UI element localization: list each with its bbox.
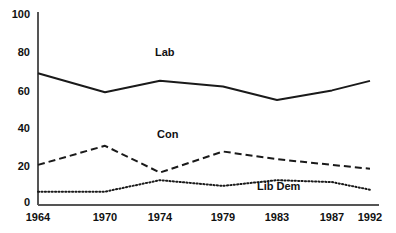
y-tick-label-20: 20 [0,160,30,172]
y-tick-label-60: 60 [0,85,30,97]
series-line-lib-dem [38,180,370,191]
plot-area [0,0,396,233]
series-label-lib-dem: Lib Dem [257,180,300,192]
series-label-lab: Lab [155,46,175,58]
x-tick-label-1979: 1979 [203,211,243,223]
line-chart: 100 80 60 40 20 0 1964 1970 1974 1979 19… [0,0,396,233]
y-tick-label-40: 40 [0,122,30,134]
x-tick-label-1987: 1987 [312,211,352,223]
series-label-con: Con [157,128,178,140]
x-tick-label-1992: 1992 [350,211,390,223]
series-line-con [38,146,370,173]
series-line-lab [38,73,370,100]
y-tick-label-80: 80 [0,46,30,58]
x-tick-label-1970: 1970 [85,211,125,223]
y-tick-label-100: 100 [0,8,30,20]
x-tick-label-1983: 1983 [257,211,297,223]
x-tick-label-1964: 1964 [18,211,58,223]
x-tick-label-1974: 1974 [140,211,180,223]
y-tick-label-0: 0 [0,196,30,208]
